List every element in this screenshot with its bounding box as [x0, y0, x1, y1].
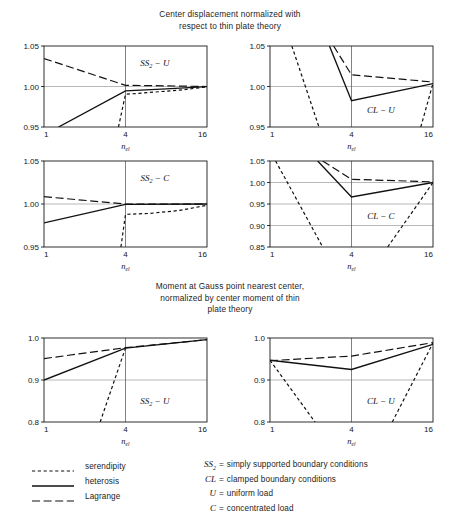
title-line: respect to thin plate theory: [0, 21, 460, 33]
x-tick-label: 4: [123, 250, 128, 259]
y-tick-label: 1.00: [249, 83, 265, 92]
title-line: plate theory: [0, 304, 460, 316]
panel-label: CL − U: [367, 105, 395, 115]
x-tick-label: 4: [349, 130, 354, 139]
symbol-definitions: SS2=simply supported boundary conditions…: [182, 459, 422, 516]
definition-row: CL=clamped boundary conditions: [182, 474, 422, 489]
legend-line-sample: [31, 477, 75, 487]
definition-symbol: CL: [182, 474, 216, 484]
y-tick-label: 0.90: [249, 222, 265, 231]
definition-text: clamped boundary conditions: [227, 475, 336, 484]
chart-cl-u-moment: 0.80.91.01416nelCL − U: [240, 330, 445, 448]
figure-page: Center displacement normalized withrespe…: [0, 0, 460, 516]
panel-label: CL − U: [367, 396, 395, 406]
x-tick-label: 1: [270, 425, 275, 434]
definition-text: concentrated load: [227, 504, 294, 513]
series-line-Lagrange: [323, 161, 433, 182]
series-line-serendipity: [100, 348, 125, 422]
y-tick-label: 0.8: [254, 418, 266, 427]
y-tick-label: 0.85: [249, 243, 265, 252]
definition-equals: =: [216, 475, 227, 484]
title-line: normalized by center moment of thin: [0, 293, 460, 305]
displacement-section-title: Center displacement normalized withrespe…: [0, 9, 460, 32]
x-tick-label: 1: [44, 425, 49, 434]
legend-label: heterosis: [75, 477, 119, 486]
title-line: Center displacement normalized with: [0, 9, 460, 21]
line-style-legend: serendipityheterosisLagrange: [31, 459, 191, 504]
definition-text: simply supported boundary conditions: [227, 460, 368, 469]
x-tick-label: 4: [123, 425, 128, 434]
x-axis-label: nel: [121, 261, 130, 272]
definition-equals: =: [216, 460, 227, 469]
definition-symbol: SS2: [182, 459, 216, 471]
panel-label: SS2 − U: [140, 396, 170, 407]
definition-symbol: C: [182, 503, 216, 513]
y-tick-label: 0.95: [249, 123, 265, 132]
y-tick-label: 1.00: [249, 179, 265, 188]
chart-ss2-c-displacement: 0.951.001.051416nelSS2 − C: [14, 153, 219, 273]
y-tick-label: 1.05: [23, 42, 39, 51]
legend-item-heterosis: heterosis: [31, 474, 191, 489]
y-tick-label: 1.0: [254, 334, 266, 343]
moment-section-title: Moment at Gauss point nearest center,nor…: [0, 281, 460, 316]
x-tick-label: 16: [198, 425, 207, 434]
y-tick-label: 0.95: [23, 123, 39, 132]
x-axis-label: nel: [121, 436, 130, 447]
x-tick-label: 4: [349, 250, 354, 259]
x-tick-label: 16: [424, 250, 433, 259]
definition-equals: =: [216, 504, 227, 513]
x-axis-label: nel: [347, 436, 356, 447]
title-line: Moment at Gauss point nearest center,: [0, 281, 460, 293]
series-line-heterosis: [59, 87, 207, 127]
definition-text: uniform load: [227, 489, 273, 498]
x-tick-label: 16: [198, 250, 207, 259]
x-axis-label: nel: [347, 141, 356, 152]
series-line-serendipity: [118, 87, 207, 127]
series-line-heterosis: [318, 161, 433, 197]
chart-ss2-u-moment: 0.80.91.01416nelSS2 − U: [14, 330, 219, 448]
y-tick-label: 1.0: [28, 334, 40, 343]
x-tick-label: 4: [349, 425, 354, 434]
y-tick-label: 0.95: [249, 200, 265, 209]
legend-label: Lagrange: [75, 492, 120, 501]
panel-label: SS2 − C: [141, 173, 171, 184]
y-tick-label: 1.05: [249, 42, 265, 51]
legend-item-lagrange: Lagrange: [31, 489, 191, 504]
series-line-Lagrange: [334, 46, 433, 82]
x-tick-label: 16: [424, 130, 433, 139]
y-tick-label: 1.00: [23, 83, 39, 92]
x-tick-label: 16: [198, 130, 207, 139]
x-axis-label: nel: [347, 261, 356, 272]
chart-ss2-u-displacement: 0.951.001.051416nelSS2 − U: [14, 38, 219, 153]
series-line-serendipity-left: [270, 360, 315, 422]
definition-row: U=uniform load: [182, 488, 422, 503]
panel-label: CL − C: [367, 211, 395, 221]
x-tick-label: 1: [44, 250, 49, 259]
x-axis-label: nel: [121, 141, 130, 152]
y-tick-label: 1.05: [249, 157, 265, 166]
x-tick-label: 4: [123, 130, 128, 139]
legend-item-serendipity: serendipity: [31, 459, 191, 474]
y-tick-label: 1.05: [23, 157, 39, 166]
y-tick-label: 0.8: [28, 418, 40, 427]
y-tick-label: 0.95: [23, 243, 39, 252]
definition-row: C=concentrated load: [182, 503, 422, 516]
y-tick-label: 0.9: [254, 376, 266, 385]
definition-equals: =: [216, 489, 227, 498]
x-tick-label: 1: [270, 250, 275, 259]
x-tick-label: 1: [44, 130, 49, 139]
definition-symbol: U: [182, 488, 216, 498]
y-tick-label: 1.00: [23, 200, 39, 209]
series-line-serendipity: [121, 205, 207, 247]
definition-row: SS2=simply supported boundary conditions: [182, 459, 422, 474]
panel-label: SS2 − U: [140, 58, 170, 69]
legend-line-sample: [31, 492, 75, 502]
y-tick-label: 0.9: [28, 376, 40, 385]
legend-label: serendipity: [75, 462, 126, 471]
series-line-serendipity-right: [421, 83, 433, 127]
x-tick-label: 1: [270, 130, 275, 139]
series-line-heterosis: [329, 46, 433, 101]
chart-cl-u-displacement: 0.951.001.051416nelCL − U: [240, 38, 445, 153]
chart-cl-c-displacement: 0.850.900.951.001.051416nelCL − C: [240, 153, 445, 273]
legend-line-sample: [31, 462, 75, 472]
